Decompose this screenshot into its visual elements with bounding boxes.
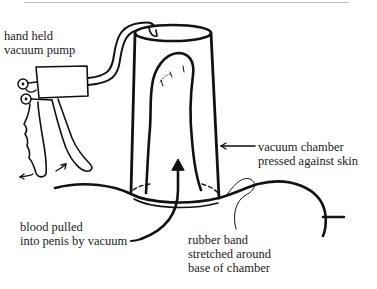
label-line: blood pulled: [20, 220, 127, 234]
label-line: rubber band: [188, 233, 271, 247]
label-line: pressed against skin: [258, 154, 358, 168]
label-blood-pulled: blood pulled into penis by vacuum: [20, 220, 127, 248]
label-line: vacuum pump: [4, 43, 75, 57]
hand-held-vacuum-pump: [18, 66, 92, 177]
label-hand-held-vacuum-pump: hand held vacuum pump: [4, 29, 75, 57]
vacuum-chamber: [131, 25, 219, 198]
label-rubber-band: rubber band stretched around base of cha…: [188, 233, 271, 275]
label-line: stretched around: [188, 247, 271, 261]
penis-outline: [146, 53, 201, 193]
label-line: vacuum chamber: [258, 140, 358, 154]
label-line: hand held: [4, 29, 75, 43]
label-vacuum-chamber: vacuum chamber pressed against skin: [258, 140, 358, 168]
label-line: base of chamber: [188, 261, 271, 275]
label-line: into penis by vacuum: [20, 234, 127, 248]
